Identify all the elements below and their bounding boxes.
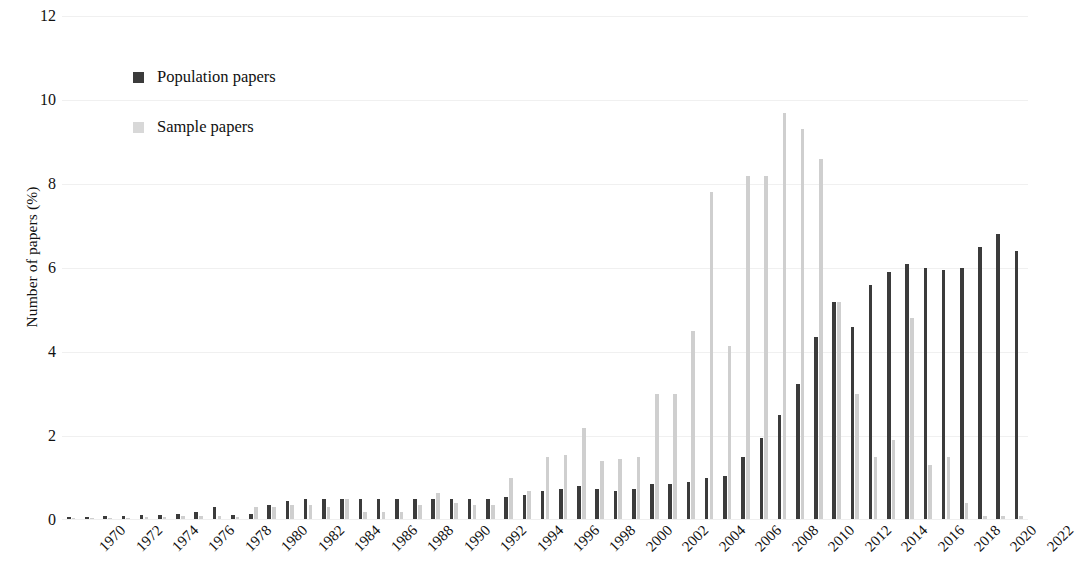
bar-group xyxy=(882,16,900,520)
legend-item-sample-papers: Sample papers xyxy=(133,112,276,142)
x-tick-label: 1984 xyxy=(351,522,384,555)
x-tick-label: 2008 xyxy=(788,522,821,555)
x-tick-label: 1992 xyxy=(497,522,530,555)
bar-group xyxy=(900,16,918,520)
bar-population-1991 xyxy=(450,499,454,520)
bar-population-2007 xyxy=(741,457,745,520)
x-tick-label: 2002 xyxy=(679,522,712,555)
bar-sample-1999 xyxy=(600,461,604,520)
bar-group xyxy=(554,16,572,520)
x-tick-label: 2018 xyxy=(971,522,1004,555)
bar-population-1985 xyxy=(340,499,344,520)
bar-sample-1989 xyxy=(418,505,422,520)
bar-group xyxy=(809,16,827,520)
bar-sample-1982 xyxy=(290,505,294,520)
x-tick-label: 2014 xyxy=(898,522,931,555)
bar-sample-2014 xyxy=(874,457,878,520)
bar-group xyxy=(937,16,955,520)
bar-group xyxy=(427,16,445,520)
x-tick-label: 1974 xyxy=(169,522,202,555)
bar-sample-1992 xyxy=(473,505,477,520)
bar-group xyxy=(317,16,335,520)
bar-population-1984 xyxy=(322,499,326,520)
bar-population-2009 xyxy=(778,415,782,520)
bar-group xyxy=(773,16,791,520)
legend-swatch-icon xyxy=(133,122,144,133)
x-tick-label: 2020 xyxy=(1007,522,1040,555)
bar-group xyxy=(445,16,463,520)
x-tick-label: 1996 xyxy=(570,522,603,555)
bar-group xyxy=(828,16,846,520)
x-tick-label: 2004 xyxy=(716,522,749,555)
bar-group xyxy=(354,16,372,520)
bar-population-2022 xyxy=(1015,251,1019,520)
bar-group xyxy=(682,16,700,520)
bar-group xyxy=(499,16,517,520)
bar-group xyxy=(736,16,754,520)
bar-group xyxy=(645,16,663,520)
bar-group xyxy=(992,16,1010,520)
bar-sample-2003 xyxy=(673,394,677,520)
bar-sample-2018 xyxy=(947,457,951,520)
bar-population-2004 xyxy=(687,482,691,520)
bar-population-1997 xyxy=(559,489,563,521)
bar-sample-2008 xyxy=(764,176,768,520)
bar-sample-2015 xyxy=(892,440,896,520)
bar-sample-2001 xyxy=(637,457,641,520)
y-tick-label: 2 xyxy=(16,428,56,444)
bar-group xyxy=(281,16,299,520)
bar-group xyxy=(518,16,536,520)
bar-group xyxy=(335,16,353,520)
x-tick-label: 1998 xyxy=(606,522,639,555)
legend-swatch-icon xyxy=(133,72,144,83)
bar-sample-1983 xyxy=(309,505,313,520)
bar-group xyxy=(372,16,390,520)
bar-sample-2011 xyxy=(819,159,823,520)
chart-legend: Population papersSample papers xyxy=(133,62,276,162)
bar-group xyxy=(299,16,317,520)
bar-population-2002 xyxy=(650,484,654,520)
x-axis-ticks: 1970197219741976197819801982198419861988… xyxy=(62,520,1028,577)
bar-group xyxy=(846,16,864,520)
x-tick-label: 1986 xyxy=(388,522,421,555)
bar-population-2003 xyxy=(668,484,672,520)
bar-population-1982 xyxy=(286,501,290,520)
bar-group xyxy=(864,16,882,520)
x-tick-label: 1988 xyxy=(424,522,457,555)
x-tick-label: 1978 xyxy=(242,522,275,555)
x-tick-label: 2010 xyxy=(825,522,858,555)
bar-population-1986 xyxy=(359,499,363,520)
bar-sample-1996 xyxy=(546,457,550,520)
bar-population-1996 xyxy=(541,491,545,520)
bar-group xyxy=(1010,16,1028,520)
bar-population-1995 xyxy=(523,495,527,520)
bar-group xyxy=(919,16,937,520)
bar-population-2013 xyxy=(851,327,855,520)
bar-population-2021 xyxy=(996,234,1000,520)
bar-population-2019 xyxy=(960,268,964,520)
x-tick-label: 1994 xyxy=(533,522,566,555)
x-tick-label: 2000 xyxy=(643,522,676,555)
x-tick-label: 1990 xyxy=(460,522,493,555)
bar-group xyxy=(609,16,627,520)
bar-group xyxy=(718,16,736,520)
bar-sample-1985 xyxy=(345,499,349,520)
bar-population-1989 xyxy=(413,499,417,520)
bar-sample-2006 xyxy=(728,346,732,520)
bar-group xyxy=(98,16,116,520)
y-tick-label: 4 xyxy=(16,344,56,360)
bar-population-2016 xyxy=(905,264,909,520)
bar-population-2008 xyxy=(760,438,764,520)
bar-sample-2000 xyxy=(618,459,622,520)
bar-sample-2012 xyxy=(837,302,841,520)
bar-group xyxy=(481,16,499,520)
bar-group xyxy=(755,16,773,520)
x-tick-label: 1982 xyxy=(315,522,348,555)
bar-sample-2004 xyxy=(691,331,695,520)
bar-population-1994 xyxy=(504,497,508,520)
bar-sample-1993 xyxy=(491,505,495,520)
x-tick-label: 1976 xyxy=(205,522,238,555)
y-tick-label: 10 xyxy=(16,92,56,108)
bar-population-2018 xyxy=(942,270,946,520)
bar-group xyxy=(463,16,481,520)
